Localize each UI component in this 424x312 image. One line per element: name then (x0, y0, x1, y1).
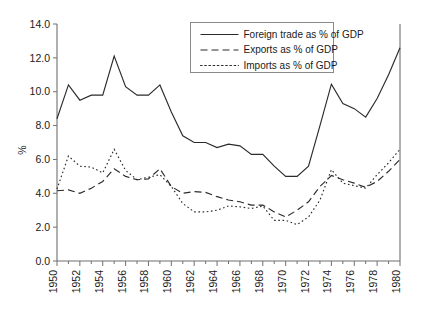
x-tick-label: 1952 (70, 270, 82, 294)
x-tick-label: 1970 (276, 270, 288, 294)
x-tick-label: 1960 (161, 270, 173, 294)
legend-label-2: Exports as % of GDP (244, 44, 339, 55)
x-tick-label: 1958 (138, 270, 150, 294)
x-tick-label: 1964 (207, 270, 219, 294)
y-tick-label: 6.0 (35, 153, 50, 165)
x-tick-label: 1978 (367, 270, 379, 294)
x-tick-label: 1980 (390, 270, 402, 294)
chart-canvas: 0.02.04.06.08.010.012.014.0 % 1950195219… (0, 0, 424, 312)
x-tick-label: 1972 (299, 270, 311, 294)
legend-label-1: Foreign trade as % of GDP (244, 29, 364, 40)
y-tick-label: 14.0 (30, 18, 51, 30)
x-tick-label: 1976 (344, 270, 356, 294)
x-tick-label: 1962 (184, 270, 196, 294)
y-tick-label: 10.0 (30, 85, 51, 97)
x-tick-label: 1966 (230, 270, 242, 294)
y-tick-label: 4.0 (35, 187, 50, 199)
x-tick-label: 1950 (47, 270, 59, 294)
x-tick-label: 1956 (116, 270, 128, 294)
y-tick-label: 0.0 (35, 255, 50, 267)
x-tick-label: 1954 (93, 270, 105, 294)
y-tick-label: 12.0 (30, 52, 51, 64)
line-chart: 0.02.04.06.08.010.012.014.0 % 1950195219… (0, 0, 424, 312)
legend-label-3: Imports as % of GDP (244, 60, 338, 71)
x-tick-label: 1968 (253, 270, 265, 294)
y-tick-label: 2.0 (35, 221, 50, 233)
y-axis-title: % (16, 145, 28, 154)
y-tick-label: 8.0 (35, 119, 50, 131)
x-tick-label: 1974 (321, 270, 333, 294)
